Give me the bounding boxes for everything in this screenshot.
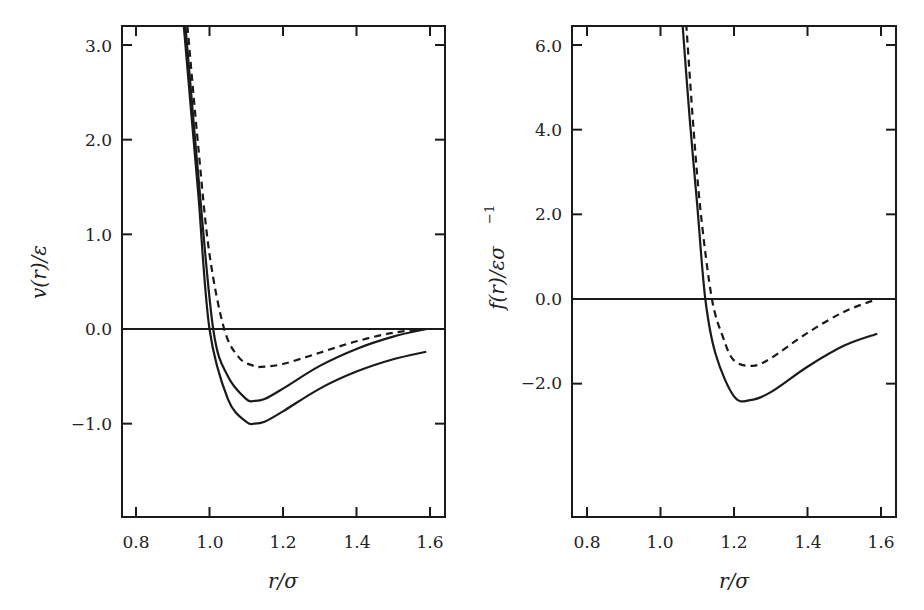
- ytick-label: 4.0: [535, 120, 562, 140]
- left-ytick-labels: −1.0 0.0 1.0 2.0 3.0: [71, 36, 112, 434]
- right-plot-curves: [572, 24, 896, 402]
- xtick-label: 1.6: [867, 532, 894, 552]
- left-y-axis-label: v(r)/ε: [27, 245, 51, 299]
- figure: 0.8 1.0 1.2 1.4 1.6 −1.0 0.0 1.0 2.0 3.0…: [0, 0, 924, 610]
- left-panel-potential: 0.8 1.0 1.2 1.4 1.6 −1.0 0.0 1.0 2.0 3.0…: [27, 7, 445, 593]
- dashed-series-line: [686, 24, 877, 366]
- ytick-label: 2.0: [535, 204, 562, 224]
- right-axis-ticks: [572, 26, 896, 517]
- right-ytick-labels: −2.0 0.0 2.0 4.0 6.0: [521, 36, 562, 393]
- ytick-label: −2.0: [521, 373, 562, 393]
- left-plot-curves: [122, 7, 445, 424]
- right-xtick-labels: 0.8 1.0 1.2 1.4 1.6: [573, 532, 894, 552]
- xtick-label: 1.2: [720, 532, 747, 552]
- ytick-label: 2.0: [85, 130, 112, 150]
- solid-series-line: [184, 7, 426, 401]
- left-xtick-labels: 0.8 1.0 1.2 1.4 1.6: [122, 532, 443, 552]
- solid-series-line: [683, 24, 878, 402]
- ytick-label: 1.0: [85, 225, 112, 245]
- right-y-axis-label-main: f(r)/εσ: [485, 245, 509, 312]
- ytick-label: 0.0: [85, 319, 112, 339]
- xtick-label: 1.4: [794, 532, 821, 552]
- xtick-label: 0.8: [573, 532, 600, 552]
- xtick-label: 1.0: [196, 532, 223, 552]
- solid-series-line: [184, 26, 426, 424]
- right-y-axis-label: f(r)/εσ −1: [482, 205, 509, 312]
- left-axis-ticks: [122, 26, 445, 517]
- left-x-axis-label: r/σ: [268, 569, 299, 593]
- right-y-axis-label-superscript: −1: [482, 205, 497, 224]
- xtick-label: 1.2: [269, 532, 296, 552]
- left-plot-frame: [122, 26, 445, 517]
- right-plot-frame: [572, 26, 896, 517]
- xtick-label: 0.8: [122, 532, 149, 552]
- xtick-label: 1.0: [646, 532, 673, 552]
- right-x-axis-label: r/σ: [719, 569, 750, 593]
- ytick-label: 0.0: [535, 289, 562, 309]
- xtick-label: 1.4: [343, 532, 370, 552]
- ytick-label: −1.0: [71, 414, 112, 434]
- dashed-series-line: [187, 26, 426, 367]
- xtick-label: 1.6: [416, 532, 443, 552]
- right-panel-force: 0.8 1.0 1.2 1.4 1.6 −2.0 0.0 2.0 4.0 6.0…: [482, 24, 896, 593]
- ytick-label: 6.0: [535, 36, 562, 56]
- ytick-label: 3.0: [85, 36, 112, 56]
